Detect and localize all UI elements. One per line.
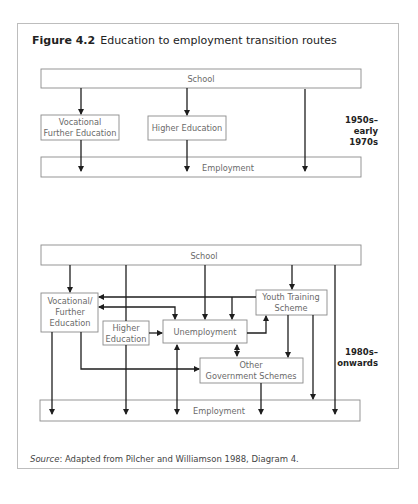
vfe-label-line2-1980s: Further — [55, 307, 85, 317]
era-label-1950s: 1950s– early 1970s — [326, 115, 378, 148]
source-label: Source — [30, 454, 59, 464]
arrow-vfe-unemployment-bidirectional — [99, 307, 175, 319]
vfe-label-line1-1980s: Vocational/ — [47, 296, 92, 306]
diagram-1950s: School Vocational Further Education High… — [41, 69, 361, 177]
arrow-unemployment-to-yts — [247, 316, 266, 333]
era-label-1980s: 1980s– onwards — [330, 347, 378, 369]
ogs-label-line2: Government Schemes — [206, 371, 297, 381]
vfe-label-line1: Vocational — [59, 117, 101, 127]
employment-label-1980s: Employment — [193, 406, 246, 416]
ogs-label-line1: Other — [239, 360, 263, 370]
school-label-1980s: School — [190, 251, 217, 261]
yts-label-line2: Scheme — [275, 303, 308, 313]
higher-education-label-1950s: Higher Education — [152, 123, 223, 133]
employment-box-1950s — [41, 157, 361, 177]
vfe-label-line3-1980s: Education — [50, 318, 91, 328]
diagram-1980s: School Vocational/ Further Education Hig… — [40, 245, 361, 421]
source-text: : Adapted from Pilcher and Williamson 19… — [59, 454, 298, 464]
he-label-line2-1980s: Education — [106, 334, 147, 344]
vfe-label-line2: Further Education — [44, 128, 117, 138]
he-label-line1-1980s: Higher — [112, 323, 140, 333]
transition-diagrams: School Vocational Further Education High… — [0, 0, 418, 504]
school-label-1950s: School — [187, 74, 214, 84]
figure-source: Source: Adapted from Pilcher and William… — [30, 454, 299, 464]
yts-label-line1: Youth Training — [261, 292, 319, 302]
employment-label-1950s: Employment — [202, 163, 255, 173]
unemployment-label: Unemployment — [174, 327, 238, 337]
